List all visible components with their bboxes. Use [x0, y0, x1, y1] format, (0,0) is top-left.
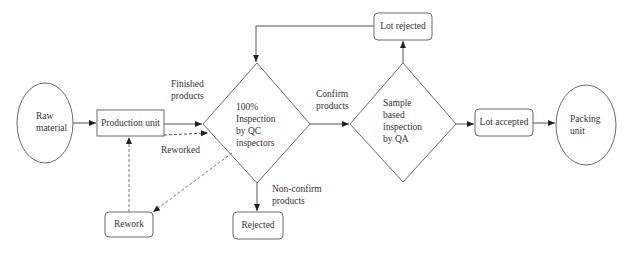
lot-rejected-label: Lot rejected — [374, 20, 432, 32]
raw-material-label: Raw material — [36, 110, 67, 134]
qa-inspection-label: Sample based inspection by QA — [383, 97, 422, 145]
qc-inspection-label: 100% Inspection by QC inspectors — [236, 101, 276, 149]
finished-products-label: Finished products — [171, 78, 204, 102]
packing-unit-line2: unit — [570, 125, 601, 137]
packing-unit-label: Packing unit — [570, 113, 601, 137]
non-confirm-line2: products — [272, 195, 322, 207]
finished-line1: Finished — [171, 78, 204, 90]
non-confirm-products-label: Non-confirm products — [272, 183, 322, 207]
reworked-label: Reworked — [161, 144, 200, 156]
qc-line1: 100% — [236, 101, 276, 113]
rework-label: Rework — [105, 218, 153, 230]
qa-line3: inspection — [383, 121, 422, 133]
qc-line4: inspectors — [236, 137, 276, 149]
raw-material-line1: Raw — [36, 110, 67, 122]
flowchart-canvas — [0, 0, 631, 253]
lot-accepted-label: Lot accepted — [475, 116, 533, 128]
production-unit-label: Production unit — [97, 117, 164, 129]
edge-qc-to-rework — [153, 153, 232, 212]
qc-line2: Inspection — [236, 113, 276, 125]
edge-reworked-to-qc — [164, 133, 208, 135]
edge-lot-rejected-to-qc — [256, 26, 374, 62]
confirm-line2: products — [316, 100, 349, 112]
non-confirm-line1: Non-confirm — [272, 183, 322, 195]
raw-material-line2: material — [36, 122, 67, 134]
confirm-line1: Confirm — [316, 88, 349, 100]
qa-line2: based — [383, 109, 422, 121]
packing-unit-line1: Packing — [570, 113, 601, 125]
rejected-label: Rejected — [233, 219, 283, 231]
qc-line3: by QC — [236, 125, 276, 137]
qa-line4: by QA — [383, 133, 422, 145]
confirm-products-label: Confirm products — [316, 88, 349, 112]
qa-line1: Sample — [383, 97, 422, 109]
finished-line2: products — [171, 90, 204, 102]
